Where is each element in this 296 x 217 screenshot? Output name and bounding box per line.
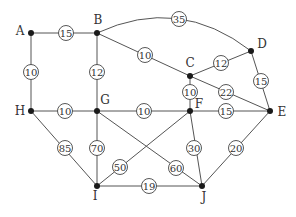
node-label-C: C <box>185 56 194 70</box>
weight-label-C-D: 12 <box>215 58 228 69</box>
weight-label-B-C: 10 <box>139 50 152 61</box>
weight-label-G-I: 70 <box>91 143 104 154</box>
node-A <box>28 30 34 36</box>
weight-label-B-D: 35 <box>173 14 186 25</box>
node-label-J: J <box>200 190 207 204</box>
edges-layer <box>31 18 270 186</box>
node-H <box>28 108 34 114</box>
node-label-G: G <box>100 93 110 107</box>
weighted-graph-diagram: 15101210351210221510101585705060302019 A… <box>0 0 296 217</box>
weight-label-F-E: 15 <box>220 106 233 117</box>
node-B <box>94 30 100 36</box>
weight-label-F-J: 30 <box>188 143 201 154</box>
node-label-H: H <box>15 104 25 118</box>
weight-label-H-G: 10 <box>59 106 72 117</box>
weight-label-A-H: 10 <box>25 67 38 78</box>
node-label-B: B <box>94 13 103 27</box>
node-label-D: D <box>257 37 267 51</box>
weight-label-G-J: 60 <box>170 163 183 174</box>
weight-label-H-I: 85 <box>59 143 72 154</box>
weight-label-A-B: 15 <box>60 28 73 39</box>
node-label-I: I <box>93 189 98 203</box>
node-label-A: A <box>15 24 25 38</box>
weight-label-C-E: 22 <box>220 87 233 98</box>
weight-label-E-J: 20 <box>230 143 243 154</box>
node-label-E: E <box>278 105 287 119</box>
node-D <box>248 48 254 54</box>
weight-label-B-G: 12 <box>91 67 104 78</box>
node-J <box>199 183 205 189</box>
weight-label-G-F: 10 <box>138 106 151 117</box>
node-G <box>94 108 100 114</box>
weight-label-D-E: 15 <box>255 76 268 87</box>
weight-label-I-J: 19 <box>143 181 156 192</box>
node-E <box>267 108 273 114</box>
weight-label-I-F: 50 <box>114 162 127 173</box>
node-C <box>187 73 193 79</box>
weights-layer: 15101210351210221510101585705060302019 <box>24 12 269 194</box>
node-label-F: F <box>195 97 203 111</box>
node-F <box>187 108 193 114</box>
